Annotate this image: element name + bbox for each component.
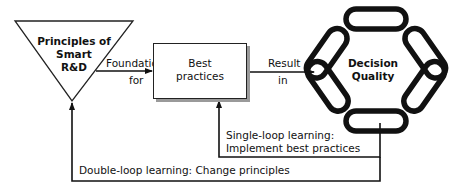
principles-line1: Principles of bbox=[30, 35, 118, 48]
best-practices-line2: practices bbox=[154, 70, 246, 83]
principles-line3: R&D bbox=[30, 61, 118, 74]
single-loop-label: Single-loop learning: Implement best pra… bbox=[226, 129, 360, 155]
decision-quality-line1: Decision bbox=[341, 57, 405, 70]
decision-quality-line2: Quality bbox=[341, 70, 405, 83]
foundation-label-line2: for bbox=[129, 74, 143, 87]
best-practices-box: Best practices bbox=[153, 43, 247, 99]
best-practices-line1: Best bbox=[154, 57, 246, 70]
double-loop-label: Double-loop learning: Change principles bbox=[79, 164, 290, 177]
result-label-line1: Result bbox=[268, 57, 300, 70]
single-loop-line1: Single-loop learning: bbox=[226, 129, 360, 142]
best-practices-label: Best practices bbox=[154, 57, 246, 83]
decision-quality-label: Decision Quality bbox=[341, 57, 405, 83]
diagram-canvas: Principles of Smart R&D Foundation for B… bbox=[0, 0, 454, 194]
single-loop-line2: Implement best practices bbox=[226, 142, 360, 155]
result-label-line2: in bbox=[278, 74, 288, 87]
principles-label: Principles of Smart R&D bbox=[30, 35, 118, 74]
principles-line2: Smart bbox=[30, 48, 118, 61]
